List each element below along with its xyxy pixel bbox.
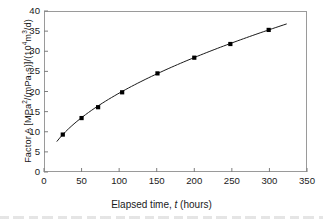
data-point bbox=[267, 28, 271, 32]
y-axis-title-suffix: /d) bbox=[23, 19, 33, 30]
x-tick-label: 200 bbox=[174, 176, 214, 186]
plot-graphics bbox=[44, 11, 307, 172]
y-axis-title-mid: /(mPa·s)]/(10 bbox=[23, 45, 33, 100]
y-axis-title-mid2: m bbox=[23, 34, 33, 42]
x-tick-label: 250 bbox=[212, 176, 252, 186]
x-axis-tick-marks bbox=[44, 168, 307, 172]
data-point-markers bbox=[61, 28, 271, 137]
y-axis-tick-marks bbox=[44, 11, 48, 172]
data-point bbox=[228, 42, 232, 46]
data-point bbox=[96, 105, 100, 109]
data-point bbox=[61, 132, 65, 136]
y-axis-title-sup-m: 3 bbox=[21, 30, 28, 34]
fit-curve bbox=[57, 24, 287, 142]
y-axis-title-sup-ten: 4 bbox=[21, 42, 28, 46]
data-point bbox=[155, 71, 159, 75]
x-axis-title: Elapsed time, t (hours) bbox=[0, 199, 323, 210]
y-axis-title-sup-mpa: 2 bbox=[21, 100, 28, 104]
x-tick-label: 300 bbox=[249, 176, 289, 186]
figure: Factor A [MPa2/(mPa·s)]/(104m3/d) 051015… bbox=[0, 0, 323, 220]
data-point bbox=[192, 56, 196, 60]
x-axis-variable: t bbox=[175, 199, 178, 210]
x-tick-label: 50 bbox=[62, 176, 102, 186]
data-point bbox=[79, 116, 83, 120]
page-text-fragment bbox=[0, 216, 323, 219]
x-tick-label: 350 bbox=[287, 176, 323, 186]
x-tick-label: 100 bbox=[99, 176, 139, 186]
x-tick-label: 150 bbox=[137, 176, 177, 186]
y-axis-title-prefix: Factor A [MPa bbox=[23, 104, 33, 163]
data-point bbox=[120, 90, 124, 94]
y-axis-title: Factor A [MPa2/(mPa·s)]/(104m3/d) bbox=[23, 1, 33, 181]
